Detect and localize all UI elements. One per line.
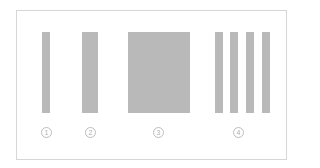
group-3-bar	[128, 32, 190, 113]
group-4-marker: 4	[233, 127, 244, 138]
group-3-marker: 3	[153, 127, 164, 138]
group-2-bar	[82, 32, 98, 113]
group-4-bar-1	[215, 32, 223, 113]
group-4-bar-4	[262, 32, 270, 113]
group-4-bar-3	[246, 32, 254, 113]
group-2-marker: 2	[85, 127, 96, 138]
group-1-marker: 1	[41, 127, 52, 138]
group-4-bar-2	[230, 32, 238, 113]
group-1-bar	[42, 32, 50, 113]
